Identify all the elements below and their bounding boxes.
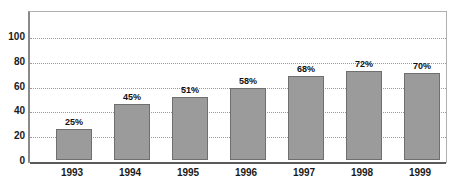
bar-1994[interactable] [114, 104, 150, 160]
y-tick-label-100: 100 [1, 31, 25, 42]
plot-area: 25% 45% 51% 58% 68% 72% [30, 12, 446, 162]
bar-value-1998: 72% [340, 59, 388, 69]
x-tick-label-1994: 1994 [102, 167, 158, 178]
x-tick-label-1998: 1998 [334, 167, 390, 178]
bar-1995[interactable] [172, 97, 208, 160]
bar-chart-figure: 25% 45% 51% 58% 68% 72% [0, 0, 457, 194]
bar-1998[interactable] [346, 71, 382, 160]
bar-value-1995: 51% [166, 85, 214, 95]
bar-value-1999: 70% [398, 61, 446, 71]
x-tick-label-1999: 1999 [392, 167, 448, 178]
plot-frame: 25% 45% 51% 58% 68% 72% [28, 11, 447, 163]
gridline-100 [30, 38, 446, 39]
bar-1997[interactable] [288, 76, 324, 160]
bar-value-1996: 58% [224, 76, 272, 86]
x-tick-label-1995: 1995 [160, 167, 216, 178]
bar-1996[interactable] [230, 88, 266, 160]
bar-value-1993: 25% [50, 117, 98, 127]
bar-value-1997: 68% [282, 64, 330, 74]
bar-value-1994: 45% [108, 92, 156, 102]
bar-1993[interactable] [56, 129, 92, 160]
y-tick-label-60: 60 [1, 81, 25, 92]
y-tick-label-0: 0 [1, 155, 25, 166]
x-tick-label-1993: 1993 [44, 167, 100, 178]
x-tick-label-1996: 1996 [218, 167, 274, 178]
y-tick-label-20: 20 [1, 130, 25, 141]
y-tick-label-40: 40 [1, 105, 25, 116]
y-tick-label-80: 80 [1, 56, 25, 67]
x-tick-label-1997: 1997 [276, 167, 332, 178]
bar-1999[interactable] [404, 73, 440, 160]
axis-baseline [30, 162, 446, 164]
